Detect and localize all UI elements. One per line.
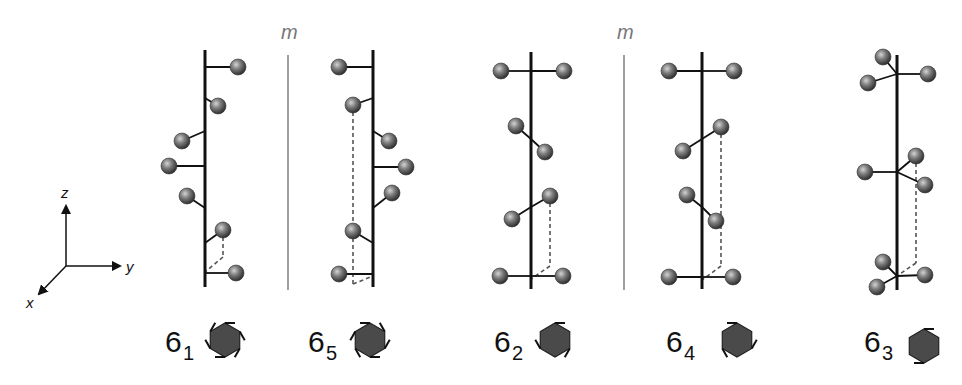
x-axis-label: x xyxy=(25,294,34,311)
atom-sphere xyxy=(179,188,195,204)
atom-sphere xyxy=(675,143,691,159)
label-subscript: 5 xyxy=(326,342,337,364)
label-base: 6 xyxy=(165,325,182,358)
atom-sphere xyxy=(508,118,524,134)
screw-axis-6-3 xyxy=(857,49,936,295)
atom-sphere xyxy=(708,213,724,229)
label-subscript: 1 xyxy=(183,342,194,364)
label-6-5: 6 5 xyxy=(308,325,337,364)
atom-sphere xyxy=(908,148,924,164)
label-subscript: 4 xyxy=(684,342,695,364)
symbol-tail xyxy=(240,332,245,341)
atom-sphere xyxy=(384,185,400,201)
atom-sphere xyxy=(917,177,933,193)
atom-sphere xyxy=(331,59,347,75)
symbol-tail xyxy=(205,340,210,349)
atom-sphere xyxy=(174,133,190,149)
screw-axis-6-1 xyxy=(161,50,246,287)
hexagon-shape xyxy=(722,323,751,357)
label-6-3: 6 3 xyxy=(864,325,893,364)
screw-axis-6-5 xyxy=(331,50,414,287)
label-subscript: 3 xyxy=(882,342,893,364)
label-6-2: 6 2 xyxy=(494,325,523,364)
atom-sphere xyxy=(345,97,361,113)
z-axis-label: z xyxy=(60,184,69,201)
screw-symbol-6-2-icon xyxy=(535,323,569,357)
atom-sphere xyxy=(725,269,741,285)
label-6-1: 6 1 xyxy=(165,325,194,364)
atom-sphere xyxy=(210,98,226,114)
atom-sphere xyxy=(875,254,891,270)
atom-sphere xyxy=(230,59,246,75)
atom-sphere xyxy=(869,279,885,295)
atom-sphere xyxy=(345,223,361,239)
y-axis-label: y xyxy=(125,258,135,275)
atom-sphere xyxy=(661,269,677,285)
label-6-4: 6 4 xyxy=(666,325,695,364)
screw-symbol-6-4-icon xyxy=(722,323,756,357)
mirror-label-1: m xyxy=(281,21,298,43)
screw-axis-6-2 xyxy=(492,52,572,289)
atom-sphere xyxy=(726,63,742,79)
dashed-guide-line xyxy=(353,276,373,284)
atom-sphere xyxy=(875,49,891,65)
coordinate-axes: z y x xyxy=(25,184,135,311)
label-base: 6 xyxy=(666,325,683,358)
symbol-tail xyxy=(535,340,540,349)
x-axis-arrow xyxy=(39,266,66,294)
hexagon-shape xyxy=(909,329,938,363)
symbol-tail xyxy=(752,340,757,349)
atom-sphere xyxy=(228,265,244,281)
atom-sphere xyxy=(917,267,933,283)
atom-sphere xyxy=(537,144,553,160)
atom-sphere xyxy=(857,164,873,180)
screw-symbol-6-1-icon xyxy=(205,323,244,357)
dashed-guide-line xyxy=(897,263,916,276)
atom-sphere xyxy=(398,159,414,175)
screw-axis-6-4 xyxy=(661,52,742,289)
label-base: 6 xyxy=(864,325,881,358)
atom-sphere xyxy=(920,66,936,82)
hexagon-shape xyxy=(210,323,239,357)
atom-sphere xyxy=(492,268,508,284)
atom-sphere xyxy=(381,133,397,149)
atom-sphere xyxy=(161,158,177,174)
label-base: 6 xyxy=(308,325,325,358)
hexagon-shape xyxy=(355,323,384,357)
atom-sphere xyxy=(713,119,729,135)
atom-sphere xyxy=(504,211,520,227)
screw-symbol-6-5-icon xyxy=(350,323,389,357)
dashed-guide-line xyxy=(205,257,223,272)
atom-sphere xyxy=(215,222,231,238)
symbol-tail xyxy=(385,340,390,349)
atom-sphere xyxy=(556,63,572,79)
hexagon-shape xyxy=(540,323,569,357)
label-base: 6 xyxy=(494,325,511,358)
atom-sphere xyxy=(860,75,876,91)
atom-sphere xyxy=(542,188,558,204)
label-subscript: 2 xyxy=(512,342,523,364)
atom-sphere xyxy=(679,187,695,203)
dashed-guide-line xyxy=(531,266,550,279)
mirror-label-2: m xyxy=(617,21,634,43)
atom-sphere xyxy=(661,63,677,79)
atom-sphere xyxy=(331,266,347,282)
symbol-tail xyxy=(350,332,355,341)
screw-axes-figure: z y x m m 6 1 6 5 6 2 6 4 6 3 xyxy=(0,0,962,385)
screw-symbol-6-3-icon xyxy=(909,329,938,363)
atom-sphere xyxy=(555,268,571,284)
atom-sphere xyxy=(493,63,509,79)
